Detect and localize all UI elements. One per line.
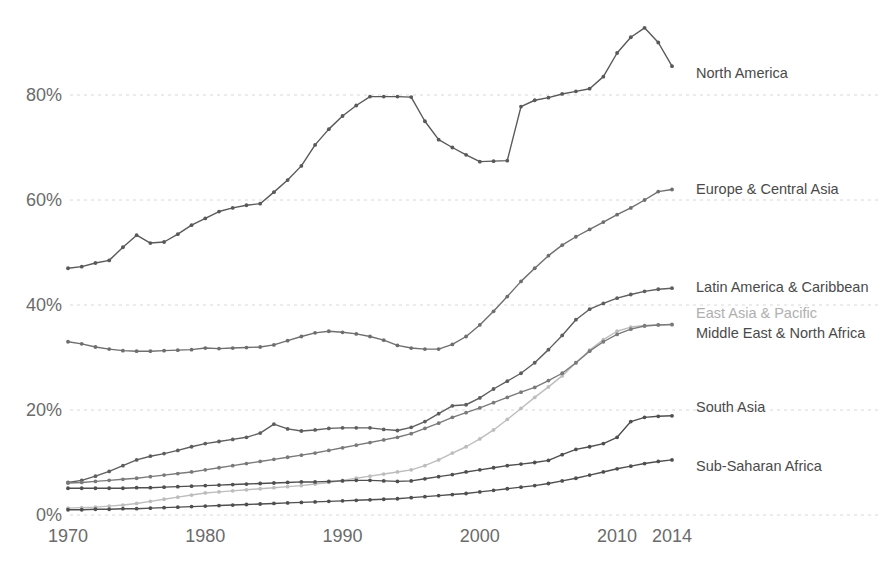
series-marker <box>505 159 509 163</box>
series-marker <box>478 160 482 164</box>
series-marker <box>354 332 358 336</box>
series-marker <box>450 473 454 477</box>
series-marker <box>547 348 551 352</box>
series-marker <box>533 396 537 400</box>
series-marker <box>656 190 660 194</box>
y-axis-tick-labels: 0%20%40%60%80% <box>26 85 62 525</box>
series-marker <box>615 435 619 439</box>
series-marker <box>286 501 290 505</box>
series-marker <box>258 345 262 349</box>
series-marker <box>409 432 413 436</box>
series-marker <box>423 119 427 123</box>
series-marker <box>437 347 441 351</box>
series-marker <box>176 505 180 509</box>
series-marker <box>258 482 262 486</box>
series-marker <box>574 447 578 451</box>
y-tick-label: 60% <box>26 190 62 210</box>
series-marker <box>203 484 207 488</box>
series-marker <box>66 508 70 512</box>
series-line <box>68 460 672 510</box>
series-marker <box>176 495 180 499</box>
series-marker <box>478 468 482 472</box>
series-label-sub-saharan-africa: Sub-Saharan Africa <box>696 458 823 474</box>
series-marker <box>450 493 454 497</box>
series-marker <box>368 498 372 502</box>
series-marker <box>396 344 400 348</box>
series-marker <box>327 449 331 453</box>
x-axis-tick-labels: 197019801990200020102014 <box>48 526 692 546</box>
series-marker <box>533 461 537 465</box>
series-marker <box>341 479 345 483</box>
series-marker <box>258 487 262 491</box>
series-marker <box>286 178 290 182</box>
series-marker <box>656 287 660 291</box>
series-marker <box>66 481 70 485</box>
series-marker <box>368 426 372 430</box>
series-marker <box>107 486 111 490</box>
series-marker <box>107 507 111 511</box>
series-marker <box>313 331 317 335</box>
series-marker <box>121 245 125 249</box>
series-marker <box>327 329 331 333</box>
series-marker <box>231 503 235 507</box>
series-marker <box>643 415 647 419</box>
series-marker <box>80 265 84 269</box>
series-marker <box>615 51 619 55</box>
series-marker <box>629 293 633 297</box>
series-marker <box>478 406 482 410</box>
series-marker <box>231 346 235 350</box>
series-marker <box>505 464 509 468</box>
series-marker <box>396 95 400 99</box>
y-tick-label: 40% <box>26 295 62 315</box>
series-marker <box>519 371 523 375</box>
series-marker <box>629 35 633 39</box>
series-marker <box>217 490 221 494</box>
series-marker <box>176 232 180 236</box>
series-marker <box>588 228 592 232</box>
series-marker <box>162 485 166 489</box>
series-marker <box>450 451 454 455</box>
series-marker <box>656 460 660 464</box>
series-marker <box>629 206 633 210</box>
series-marker <box>272 486 276 490</box>
series-marker <box>643 289 647 293</box>
series-marker <box>588 445 592 449</box>
series-marker <box>217 440 221 444</box>
series-marker <box>203 504 207 508</box>
series-annotations: North AmericaEurope & Central AsiaLatin … <box>696 65 869 474</box>
series-marker <box>450 415 454 419</box>
series-marker <box>121 349 125 353</box>
y-tick-label: 0% <box>36 505 62 525</box>
series-marker <box>341 330 345 334</box>
series-marker <box>615 467 619 471</box>
series-marker <box>574 476 578 480</box>
series-marker <box>574 235 578 239</box>
series-line <box>68 190 672 352</box>
series-marker <box>588 473 592 477</box>
series-marker <box>423 426 427 430</box>
series-marker <box>409 496 413 500</box>
series-marker <box>107 258 111 262</box>
series-marker <box>437 421 441 425</box>
series-marker <box>299 164 303 168</box>
series-marker <box>354 443 358 447</box>
series-marker <box>492 309 496 313</box>
x-tick-label: 1970 <box>48 526 88 546</box>
series-marker <box>588 307 592 311</box>
series-marker <box>299 335 303 339</box>
series-marker <box>94 486 98 490</box>
series-marker <box>341 446 345 450</box>
series-marker <box>368 474 372 478</box>
series-marker <box>94 507 98 511</box>
chart-svg: 0%20%40%60%80% 197019801990200020102014 … <box>0 0 890 567</box>
y-tick-label: 80% <box>26 85 62 105</box>
series-marker <box>313 500 317 504</box>
series-marker <box>409 95 413 99</box>
series-marker <box>135 476 139 480</box>
series-marker <box>327 499 331 503</box>
series-marker <box>107 470 111 474</box>
series-marker <box>396 470 400 474</box>
series-marker <box>66 486 70 490</box>
series-marker <box>492 387 496 391</box>
series-marker <box>450 404 454 408</box>
